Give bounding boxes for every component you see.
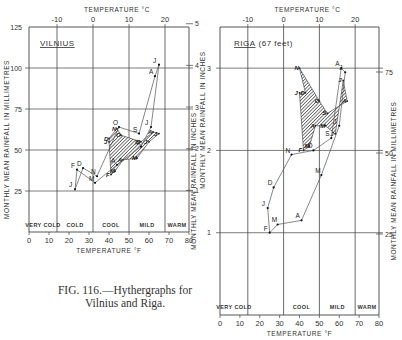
svg-text:1: 1 [207, 229, 211, 236]
svg-text:A: A [117, 157, 122, 163]
svg-text:50: 50 [125, 236, 133, 245]
svg-text:TEMPERATURE °F: TEMPERATURE °F [76, 247, 141, 254]
svg-text:M: M [315, 167, 320, 174]
svg-text:MILD: MILD [139, 222, 154, 228]
svg-text:S: S [133, 126, 138, 133]
svg-text:J: J [338, 77, 342, 83]
svg-text:J: J [145, 119, 148, 126]
svg-text:O: O [116, 132, 121, 138]
caption-line-2: Vilnius and Riga. [40, 297, 210, 310]
svg-text:D: D [268, 179, 273, 186]
svg-text:COLD: COLD [66, 222, 83, 228]
svg-text:A: A [309, 123, 314, 129]
svg-text:VERY COLD: VERY COLD [216, 304, 251, 310]
svg-text:75: 75 [14, 106, 22, 113]
svg-text:3: 3 [207, 65, 211, 72]
svg-text:A: A [149, 68, 154, 75]
svg-text:D: D [104, 136, 109, 142]
svg-text:2: 2 [207, 147, 211, 154]
svg-text:M: M [89, 175, 94, 182]
svg-text:125: 125 [10, 24, 22, 31]
svg-text:J: J [262, 200, 265, 207]
svg-text:COOL: COOL [293, 304, 311, 310]
svg-text:F: F [71, 162, 75, 169]
svg-text:M: M [135, 139, 140, 146]
svg-text:75: 75 [385, 69, 393, 76]
svg-text:10: 10 [315, 15, 323, 24]
chart-riga: 12325507501020304050607080TEMPERATURE °F… [190, 6, 397, 337]
svg-text:10: 10 [125, 15, 133, 24]
svg-text:70: 70 [165, 236, 173, 245]
svg-text:20: 20 [161, 15, 169, 24]
svg-text:WARM: WARM [167, 222, 186, 228]
svg-text:-10: -10 [242, 15, 253, 24]
svg-text:RIGA(67 feet): RIGA(67 feet) [234, 39, 293, 48]
svg-text:TEMPERATURE °C: TEMPERATURE °C [84, 6, 150, 13]
svg-text:VERY COLD: VERY COLD [25, 222, 60, 228]
svg-text:5: 5 [195, 20, 199, 27]
svg-text:N: N [112, 126, 117, 132]
chart-vilnius: 2550751001251234501020304050607080TEMPER… [3, 6, 206, 254]
svg-text:MONTHLY MEAN RAINFALL IN MILLI: MONTHLY MEAN RAINFALL IN MILLIMETRES [390, 101, 397, 260]
svg-text:M: M [272, 216, 277, 223]
svg-text:A: A [335, 60, 340, 67]
svg-text:O: O [113, 119, 118, 126]
svg-text:MONTHLY MEAN RAINFALL IN MILLI: MONTHLY MEAN RAINFALL IN MILLIMETRES [3, 60, 10, 219]
svg-text:50: 50 [315, 319, 323, 328]
svg-text:N: N [286, 147, 291, 154]
svg-text:0: 0 [27, 236, 31, 245]
svg-text:30: 30 [85, 236, 93, 245]
svg-text:10: 10 [45, 236, 53, 245]
svg-text:COOL: COOL [102, 222, 120, 228]
svg-text:D: D [77, 160, 82, 167]
figure-caption: FIG. 116.—Hythergraphs for Vilnius and R… [40, 284, 210, 310]
svg-text:TEMPERATURE °C: TEMPERATURE °C [274, 6, 340, 13]
svg-text:10: 10 [236, 319, 244, 328]
svg-text:0: 0 [218, 319, 222, 328]
svg-text:VILNIUS: VILNIUS [40, 39, 75, 48]
svg-text:MILD: MILD [330, 304, 345, 310]
svg-text:J: J [295, 90, 299, 96]
svg-text:MONTHLY MEAN RAINFALL IN INCHE: MONTHLY MEAN RAINFALL IN INCHES [190, 112, 197, 249]
svg-text:J: J [333, 118, 336, 125]
svg-text:30: 30 [275, 319, 283, 328]
svg-text:0: 0 [282, 15, 286, 24]
svg-text:60: 60 [145, 236, 153, 245]
svg-text:80: 80 [375, 319, 383, 328]
svg-text:20: 20 [351, 15, 359, 24]
svg-text:N: N [295, 65, 300, 71]
caption-line-1: FIG. 116.—Hythergraphs for [40, 284, 210, 297]
svg-text:J: J [153, 57, 156, 64]
svg-text:50: 50 [14, 147, 22, 154]
svg-text:60: 60 [335, 319, 343, 328]
svg-text:40: 40 [295, 319, 303, 328]
svg-text:MONTHLY MEAN RAINFALL IN INCHE: MONTHLY MEAN RAINFALL IN INCHES [199, 51, 206, 188]
svg-text:O: O [314, 98, 319, 104]
svg-text:100: 100 [10, 65, 22, 72]
svg-text:70: 70 [355, 319, 363, 328]
svg-text:25: 25 [14, 188, 22, 195]
svg-text:D: D [300, 90, 305, 96]
svg-text:S: S [325, 130, 330, 137]
svg-text:0: 0 [91, 15, 95, 24]
svg-text:40: 40 [105, 236, 113, 245]
svg-text:J: J [69, 181, 72, 188]
svg-text:F: F [264, 225, 268, 232]
svg-text:20: 20 [256, 319, 264, 328]
svg-text:20: 20 [65, 236, 73, 245]
svg-text:-10: -10 [52, 15, 63, 24]
svg-text:S: S [322, 110, 326, 116]
svg-text:TEMPERATURE °F: TEMPERATURE °F [267, 330, 332, 337]
svg-text:A: A [295, 212, 300, 219]
svg-text:N: N [91, 168, 96, 175]
svg-text:O: O [307, 142, 312, 149]
svg-text:A: A [111, 157, 116, 164]
svg-text:WARM: WARM [358, 304, 377, 310]
